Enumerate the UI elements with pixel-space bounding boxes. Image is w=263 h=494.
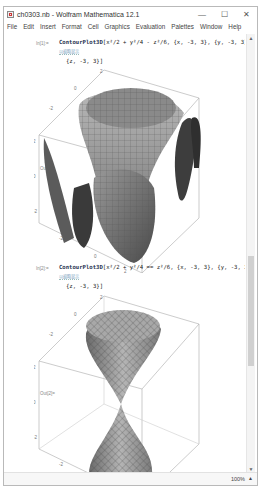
axis-tick: 2 (34, 139, 36, 144)
axis-tick: -2 (49, 106, 53, 111)
input-hint-1[interactable]: 以缩略显示 (59, 48, 79, 55)
menu-file[interactable]: File (7, 23, 17, 30)
vertical-scrollbar[interactable]: ▲ ▼ (246, 34, 255, 473)
menu-help[interactable]: Help (228, 23, 241, 30)
scroll-thumb[interactable] (248, 256, 254, 366)
notebook-content[interactable]: In[1]:= ContourPlot3D[x²/2 + y²/4 - z²/6… (4, 34, 245, 473)
function-name: ContourPlot3D (59, 39, 103, 45)
axis-tick: -2 (49, 332, 53, 337)
input-label-2: In[2]:= (36, 266, 49, 271)
input-code-1-line1[interactable]: ContourPlot3D[x²/2 + y²/4 - z²/6, {x, -3… (59, 39, 245, 45)
input-code-1-line2[interactable]: {z, -3, 3}] (66, 58, 103, 64)
maximize-button[interactable]: ☐ (213, 10, 235, 19)
mathematica-window: ch0303.nb - Wolfram Mathematica 12.1 — ☐… (3, 6, 258, 486)
scroll-up-icon[interactable]: ▲ (247, 35, 255, 41)
menu-insert[interactable]: Insert (40, 23, 56, 30)
status-bar: 100% ▲ (4, 472, 257, 485)
axis-tick: 0 (34, 400, 36, 405)
axis-tick: 0 (74, 86, 77, 91)
menu-window[interactable]: Window (200, 23, 222, 30)
menu-format[interactable]: Format (62, 23, 82, 30)
axis-tick: -2 (59, 236, 63, 241)
menu-graphics[interactable]: Graphics (105, 23, 130, 30)
axis-tick: 0 (34, 174, 36, 179)
function-name: ContourPlot3D (59, 264, 103, 270)
menu-edit[interactable]: Edit (23, 23, 34, 30)
window-title: ch0303.nb - Wolfram Mathematica 12.1 (17, 11, 191, 18)
menu-evaluation[interactable]: Evaluation (136, 23, 165, 30)
notebook-app-icon (7, 11, 14, 18)
input-hint-2[interactable]: 以缩略显示 (59, 273, 79, 280)
input-code-2-line1[interactable]: ContourPlot3D[x²/2 + y²/4 == z²/6, {x, -… (59, 264, 245, 270)
menu-palettes[interactable]: Palettes (171, 23, 194, 30)
contour-plot-3d-double-cone[interactable]: 2 0 -2 2 0 -2 -2 0 2 (34, 294, 209, 473)
title-bar: ch0303.nb - Wolfram Mathematica 12.1 — ☐… (4, 7, 257, 21)
axis-tick: -2 (34, 435, 37, 440)
axis-tick: -2 (59, 462, 63, 467)
menu-cell[interactable]: Cell (88, 23, 99, 30)
menu-bar: File Edit Insert Format Cell Graphics Ev… (4, 21, 257, 32)
minimize-button[interactable]: — (191, 10, 213, 19)
input-code-2-line2[interactable]: {z, -3, 3}] (66, 283, 103, 289)
axis-tick: 0 (74, 312, 77, 317)
axis-tick: 0 (94, 254, 97, 259)
zoom-level[interactable]: 100% (231, 476, 245, 482)
axis-tick: -2 (34, 209, 37, 214)
contour-plot-3d-hyperboloids[interactable]: 2 0 -2 2 0 -2 -2 0 2 (34, 68, 209, 273)
input-label-1: In[1]:= (36, 41, 49, 46)
zoom-menu-icon[interactable]: ▲ (248, 475, 253, 481)
axis-tick: 2 (34, 365, 36, 370)
close-button[interactable]: ✕ (235, 10, 257, 19)
